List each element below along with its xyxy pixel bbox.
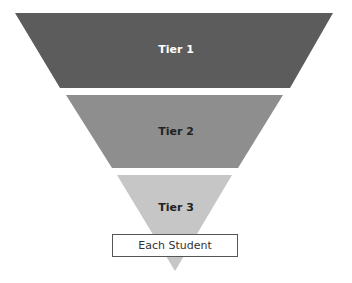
tier-1-label: Tier 1 [0,43,352,57]
tier-3-label: Tier 3 [0,201,352,215]
each-student-box: Each Student [112,234,238,257]
tier-2-label: Tier 2 [0,125,352,139]
